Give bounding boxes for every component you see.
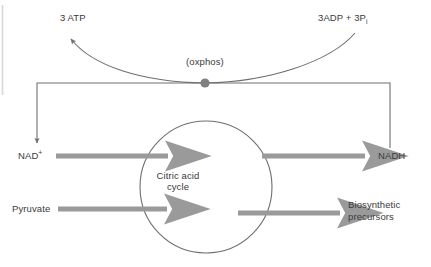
label-citric-acid-cycle-line1: Citric acid [157,170,200,181]
diagram-canvas: 3 ATP 3ADP + 3Pi (oxphos) NAD+ NADH Pyru… [0,0,431,267]
label-citric-acid-cycle-line2: cycle [167,181,189,192]
label-3-atp: 3 ATP [60,12,86,23]
label-nadh: NADH [378,150,405,161]
label-3adp-3pi: 3ADP + 3Pi [318,12,368,23]
label-pyruvate: Pyruvate [12,203,50,214]
label-3adp-3pi-text: 3ADP + 3P [318,12,366,23]
label-citric-acid-cycle: Citric acidcycle [157,170,200,192]
oxphos-node-dot [200,78,209,87]
label-biosynthetic-precursors-line2: precursors [348,211,394,222]
label-biosynthetic-precursors-line1: Biosynthetic [348,199,400,210]
label-3adp-3pi-subscript: i [366,18,368,25]
label-nad-plus-superscript: + [38,149,42,156]
diagram-graphics [0,0,431,267]
label-nad-plus: NAD+ [18,150,42,161]
nadh-recycle-path-arrow [37,83,390,148]
label-oxphos: (oxphos) [186,56,224,67]
label-biosynthetic-precursors: Biosyntheticprecursors [348,199,400,223]
label-nad-plus-text: NAD [18,150,38,161]
